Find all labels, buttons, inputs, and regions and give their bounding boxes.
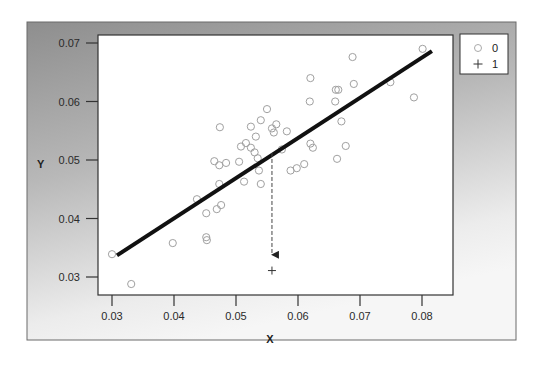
legend-label-1: 1: [492, 58, 498, 70]
x-tick-label: 0.03: [101, 310, 122, 322]
x-tick-label: 0.07: [349, 310, 370, 322]
y-axis-title: Y: [37, 158, 45, 170]
legend: 0 1: [460, 34, 508, 74]
x-axis-title: X: [266, 333, 274, 345]
scatter-chart: 0.030.040.050.060.07 0.030.040.050.060.0…: [0, 0, 541, 374]
y-tick-label: 0.04: [59, 213, 80, 225]
x-tick-label: 0.05: [225, 310, 246, 322]
x-tick-label: 0.08: [411, 310, 432, 322]
y-tick-label: 0.03: [59, 271, 80, 283]
x-tick-label: 0.06: [287, 310, 308, 322]
y-tick-label: 0.07: [59, 37, 80, 49]
x-tick-label: 0.04: [163, 310, 184, 322]
y-tick-label: 0.05: [59, 154, 80, 166]
legend-box: [460, 34, 508, 74]
legend-label-0: 0: [492, 42, 498, 54]
y-tick-label: 0.06: [59, 96, 80, 108]
